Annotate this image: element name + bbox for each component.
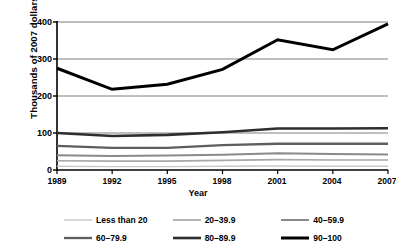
legend-item-90-100[interactable]: 90–100 [281, 229, 390, 247]
series-line-20-39-9 [57, 160, 388, 161]
legend-label-60-79-9: 60–79.9 [96, 233, 127, 243]
x-tick-1998: 1998 [213, 176, 232, 186]
x-axis-label: Year [0, 188, 396, 198]
legend-item-less-than-20[interactable]: Less than 20 [64, 211, 173, 229]
legend-label-less-than-20: Less than 20 [96, 215, 148, 225]
legend-label-20-39-9: 20–39.9 [205, 215, 236, 225]
chart-legend: Less than 2020–39.940–59.960–79.980–89.9… [64, 211, 390, 247]
series-line-40-59-9 [57, 153, 388, 156]
legend-swatch-40-59-9 [281, 215, 309, 225]
legend-item-40-59-9[interactable]: 40–59.9 [281, 211, 390, 229]
legend-swatch-20-39-9 [173, 215, 201, 225]
series-line-80-89-9 [57, 128, 388, 136]
legend-item-20-39-9[interactable]: 20–39.9 [173, 211, 282, 229]
legend-swatch-60-79-9 [64, 233, 92, 243]
legend-swatch-90-100 [281, 233, 309, 243]
x-tick-1989: 1989 [48, 176, 67, 186]
x-tick-2001: 2001 [268, 176, 287, 186]
series-line-60-79-9 [57, 144, 388, 148]
x-tick-1995: 1995 [158, 176, 177, 186]
legend-label-90-100: 90–100 [313, 233, 341, 243]
legend-label-80-89-9: 80–89.9 [205, 233, 236, 243]
legend-item-60-79-9[interactable]: 60–79.9 [64, 229, 173, 247]
legend-swatch-80-89-9 [173, 233, 201, 243]
chart-figure: Thousands of 2007 dollars 400 300 200 10… [0, 0, 396, 252]
series-line-less-than-20 [57, 166, 388, 167]
legend-swatch-less-than-20 [64, 215, 92, 225]
x-tick-1992: 1992 [103, 176, 122, 186]
x-tick-2004: 2004 [323, 176, 342, 186]
legend-label-40-59-9: 40–59.9 [313, 215, 344, 225]
series-line-90-100 [57, 24, 388, 89]
x-tick-2007: 2007 [378, 176, 396, 186]
legend-item-80-89-9[interactable]: 80–89.9 [173, 229, 282, 247]
